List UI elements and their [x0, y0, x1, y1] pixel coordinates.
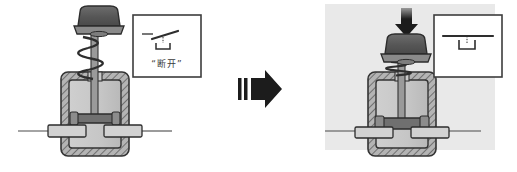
figure-open-state: “断开”: [0, 0, 260, 172]
plunger-cap: [74, 6, 124, 37]
contact-bridge-open: [70, 112, 120, 125]
plunger-cap: [381, 34, 431, 65]
diagram-stage: “断开”: [0, 0, 517, 172]
closed-state-drawing: [257, 0, 517, 172]
figure-closed-state: “闭合”: [257, 0, 517, 172]
actuation-down-arrow: [395, 8, 418, 37]
open-state-caption: “断开”: [133, 57, 201, 70]
open-state-drawing: [0, 0, 260, 172]
plunger-stem: [398, 60, 405, 122]
closed-state-label-box: [434, 15, 502, 77]
